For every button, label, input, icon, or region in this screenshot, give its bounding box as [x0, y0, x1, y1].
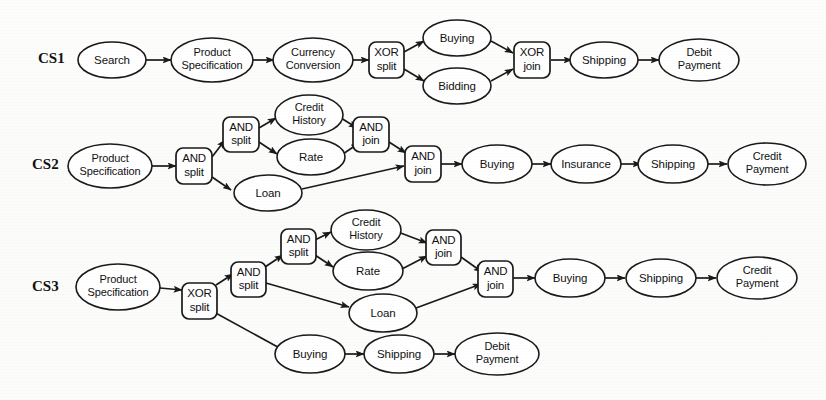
- edge-buying-to-xorjoin: [491, 41, 513, 53]
- gateway-cs3-xor-split[interactable]: XOR split: [182, 283, 217, 319]
- gateway-cs3-and-split-2[interactable]: AND split: [281, 229, 316, 264]
- node-cs3-credit-payment[interactable]: Credit Payment: [717, 257, 797, 299]
- gateway-cs1-xor-join[interactable]: XOR join: [514, 42, 550, 78]
- node-cs1-bidding[interactable]: Bidding: [423, 68, 491, 104]
- row-label-cs3: CS3: [32, 278, 59, 294]
- gateway-cs2-and-join-1[interactable]: AND join: [353, 117, 389, 152]
- gateway-cs2-and-join-2[interactable]: AND join: [405, 146, 441, 182]
- node-cs3-loan[interactable]: Loan: [349, 294, 417, 332]
- row-cs1: CS1 Search Product Specification Currenc…: [38, 20, 739, 104]
- node-cs1-product-specification[interactable]: Product Specification: [171, 38, 253, 82]
- row-label-cs1: CS1: [38, 50, 65, 66]
- edge-cs3-rate-to-andjoin1: [400, 256, 427, 270]
- edge-bidding-to-xorjoin: [491, 69, 513, 81]
- node-cs2-shipping[interactable]: Shipping: [638, 145, 708, 183]
- node-cs3-buying-top[interactable]: Buying: [535, 259, 605, 297]
- node-cs3-buying-bottom[interactable]: Buying: [275, 335, 345, 373]
- gateway-cs3-and-join-2[interactable]: AND join: [478, 261, 513, 297]
- node-cs2-product-specification[interactable]: Product Specification: [68, 144, 152, 188]
- node-cs3-rate[interactable]: Rate: [333, 252, 403, 290]
- row-cs3: CS3 Product Specification: [32, 210, 797, 375]
- node-cs2-rate[interactable]: Rate: [277, 139, 345, 175]
- edge-cs3-credithistory-to-andjoin1: [398, 232, 427, 243]
- node-cs3-debit-payment[interactable]: Debit Payment: [455, 333, 539, 375]
- edge-cs2-andsplit2-to-rate: [259, 142, 277, 154]
- workflow-diagram: CS1 Search Product Specification Currenc…: [0, 0, 826, 400]
- node-cs1-shipping[interactable]: Shipping: [570, 42, 638, 78]
- edge-cs2-andsplit1-to-loan: [212, 177, 231, 190]
- edge-xorsplit-to-buying: [404, 41, 424, 52]
- row-label-cs2: CS2: [32, 156, 59, 172]
- edge-cs3-xorsplit-to-buyingbot: [212, 311, 285, 351]
- node-cs2-loan[interactable]: Loan: [234, 175, 302, 211]
- node-cs1-buying[interactable]: Buying: [423, 20, 491, 56]
- gateway-cs3-and-split-1[interactable]: AND split: [231, 262, 266, 297]
- node-cs2-buying[interactable]: Buying: [462, 145, 532, 183]
- node-cs3-credit-history[interactable]: Credit History: [331, 210, 401, 250]
- node-cs3-shipping-bottom[interactable]: Shipping: [364, 335, 434, 373]
- row-cs2: CS2 Product Specification AND spl: [32, 95, 806, 211]
- node-cs1-debit-payment[interactable]: Debit Payment: [659, 39, 739, 81]
- node-cs2-credit-payment[interactable]: Credit Payment: [728, 143, 806, 185]
- edge-cs2-andsplit2-to-credithistory: [259, 118, 276, 128]
- node-cs1-search[interactable]: Search: [78, 42, 146, 78]
- node-cs1-currency-conversion[interactable]: Currency Conversion: [273, 38, 353, 82]
- gateway-cs1-xor-split[interactable]: XOR split: [369, 42, 404, 78]
- gateway-cs3-and-join-1[interactable]: AND join: [426, 230, 461, 265]
- edge-cs3-andsplit2-to-rate: [315, 255, 333, 267]
- edge-cs3-prodspec-to-xorsplit: [160, 288, 182, 290]
- edge-cs3-andsplit2-to-credithistory: [315, 232, 331, 240]
- node-cs2-insurance[interactable]: Insurance: [551, 145, 621, 183]
- node-cs3-product-specification[interactable]: Product Specification: [76, 264, 160, 310]
- node-cs3-shipping-top[interactable]: Shipping: [626, 259, 696, 297]
- gateway-cs2-and-split-2[interactable]: AND split: [223, 117, 259, 152]
- edge-cs3-andsplit1-to-loan: [266, 283, 349, 307]
- gateway-cs2-and-split-1[interactable]: AND split: [176, 148, 212, 184]
- edge-cs2-andjoin1-to-andjoin2: [389, 142, 406, 153]
- workflow-canvas: CS1 Search Product Specification Currenc…: [0, 0, 826, 400]
- edge-xorsplit-to-bidding: [404, 69, 424, 81]
- edge-cs3-loan-to-andjoin2: [416, 284, 481, 308]
- node-cs2-credit-history[interactable]: Credit History: [275, 95, 343, 135]
